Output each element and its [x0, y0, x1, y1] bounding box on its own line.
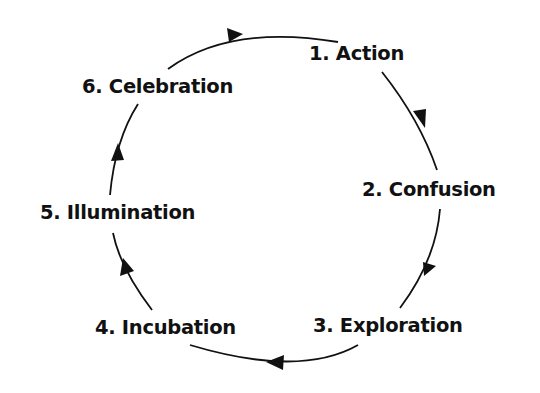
arc-illumination-to-celebration — [110, 104, 138, 195]
arc-action-to-confusion — [382, 72, 437, 170]
arrowhead-icon — [111, 143, 124, 161]
step-incubation-label: 4. Incubation — [95, 318, 236, 338]
step-action-label: 1. Action — [309, 44, 404, 64]
step-illumination-label: 5. Illumination — [40, 203, 195, 223]
arrowhead-icon — [266, 355, 284, 370]
arc-confusion-to-exploration — [400, 209, 440, 308]
step-celebration-label: 6. Celebration — [82, 77, 233, 97]
step-exploration-label: 3. Exploration — [313, 316, 463, 336]
arrowhead-icon — [413, 109, 426, 128]
arrowhead-icon — [423, 262, 436, 276]
step-confusion-label: 2. Confusion — [362, 180, 496, 200]
